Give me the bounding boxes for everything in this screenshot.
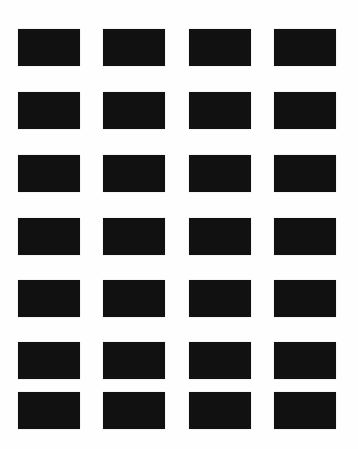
redacted-image-tile bbox=[189, 218, 251, 255]
tile-caption bbox=[103, 433, 165, 443]
redacted-image-tile bbox=[189, 29, 251, 66]
redacted-image-tile bbox=[18, 342, 80, 379]
tile-caption bbox=[274, 433, 336, 443]
redacted-image-tile bbox=[18, 155, 80, 192]
tile-caption bbox=[18, 196, 80, 206]
tile-caption bbox=[274, 196, 336, 206]
redacted-image-tile bbox=[274, 155, 336, 192]
redacted-image-tile bbox=[189, 155, 251, 192]
tile-caption bbox=[103, 259, 165, 269]
tile-caption bbox=[189, 70, 251, 80]
redacted-image-tile bbox=[18, 29, 80, 66]
redacted-image-tile bbox=[189, 342, 251, 379]
redacted-image-tile bbox=[103, 392, 165, 429]
tile-caption bbox=[18, 321, 80, 331]
tile-caption bbox=[189, 433, 251, 443]
tile-caption bbox=[103, 321, 165, 331]
redacted-image-tile bbox=[103, 218, 165, 255]
document-page bbox=[0, 0, 358, 449]
tile-caption bbox=[18, 433, 80, 443]
tile-caption bbox=[274, 321, 336, 331]
tile-caption bbox=[189, 196, 251, 206]
tile-caption bbox=[189, 259, 251, 269]
redacted-image-tile bbox=[103, 342, 165, 379]
redacted-image-tile bbox=[18, 218, 80, 255]
redacted-image-tile bbox=[18, 392, 80, 429]
tile-caption bbox=[189, 321, 251, 331]
tile-caption bbox=[103, 133, 165, 143]
tile-caption bbox=[103, 70, 165, 80]
redacted-image-tile bbox=[103, 280, 165, 317]
redacted-image-tile bbox=[274, 280, 336, 317]
redacted-image-tile bbox=[274, 392, 336, 429]
redacted-image-tile bbox=[103, 29, 165, 66]
redacted-image-tile bbox=[103, 92, 165, 129]
redacted-image-tile bbox=[274, 342, 336, 379]
redacted-image-tile bbox=[274, 29, 336, 66]
redacted-image-tile bbox=[18, 280, 80, 317]
redacted-image-tile bbox=[103, 155, 165, 192]
redacted-image-tile bbox=[18, 92, 80, 129]
tile-caption bbox=[18, 259, 80, 269]
tile-caption bbox=[18, 133, 80, 143]
tile-caption bbox=[274, 70, 336, 80]
tile-caption bbox=[18, 70, 80, 80]
tile-caption bbox=[274, 259, 336, 269]
redacted-image-tile bbox=[189, 392, 251, 429]
tile-caption bbox=[103, 196, 165, 206]
tile-caption bbox=[274, 133, 336, 143]
redacted-image-tile bbox=[189, 280, 251, 317]
tile-caption bbox=[189, 133, 251, 143]
redacted-image-tile bbox=[274, 218, 336, 255]
redacted-image-tile bbox=[274, 92, 336, 129]
redacted-image-tile bbox=[189, 92, 251, 129]
